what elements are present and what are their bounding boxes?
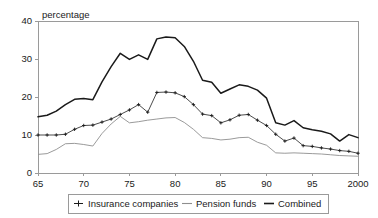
data-series-group [38, 37, 358, 156]
legend-label: Pension funds [196, 198, 256, 209]
data-point-marker [128, 108, 131, 111]
x-tick-label: 65 [33, 178, 44, 189]
data-point-marker [55, 133, 58, 136]
line-chart-canvas: 010203040 657075808590952000 percentage … [0, 0, 378, 218]
data-point-marker [237, 114, 240, 117]
data-point-marker [311, 145, 314, 148]
data-point-marker [338, 149, 341, 152]
data-point-marker [100, 120, 103, 123]
axis-top-right [38, 21, 358, 173]
chart-figure: 010203040 657075808590952000 percentage … [0, 0, 378, 218]
x-tick-label: 90 [261, 178, 272, 189]
data-point-marker [91, 123, 94, 126]
y-axis-tick-labels: 010203040 [21, 15, 32, 178]
data-point-markers-group [36, 90, 359, 155]
axis-left-bottom [38, 21, 358, 173]
data-point-marker [109, 117, 112, 120]
data-point-marker [36, 133, 39, 136]
x-axis-tick-labels: 657075808590952000 [33, 178, 369, 189]
x-tick-label: 2000 [347, 178, 368, 189]
data-point-marker [164, 90, 167, 93]
y-tick-label: 40 [21, 15, 32, 26]
y-axis-title: percentage [42, 9, 90, 20]
x-tick-label: 85 [216, 178, 227, 189]
data-point-marker [82, 124, 85, 127]
series-line-insurance-companies [38, 92, 358, 153]
data-point-marker [73, 128, 76, 131]
data-point-marker [329, 147, 332, 150]
data-point-marker [356, 152, 359, 155]
y-tick-label: 10 [21, 129, 32, 140]
chart-legend: Insurance companiesPension fundsCombined [68, 194, 328, 213]
data-point-marker [320, 146, 323, 149]
data-point-marker [119, 113, 122, 116]
y-tick-label: 20 [21, 91, 32, 102]
legend-label: Combined [278, 198, 321, 209]
series-line-pension-funds [38, 116, 358, 156]
data-point-marker [228, 118, 231, 121]
data-point-marker [45, 133, 48, 136]
x-tick-label: 70 [78, 178, 89, 189]
data-point-marker [347, 150, 350, 153]
x-tick-label: 95 [307, 178, 318, 189]
x-tick-label: 75 [124, 178, 135, 189]
data-point-marker [64, 133, 67, 136]
y-tick-label: 0 [27, 167, 32, 178]
axes-group [38, 21, 358, 173]
x-tick-label: 80 [170, 178, 181, 189]
data-point-marker [173, 91, 176, 94]
legend-label: Insurance companies [88, 198, 179, 209]
y-tick-label: 30 [21, 53, 32, 64]
data-point-marker [155, 91, 158, 94]
